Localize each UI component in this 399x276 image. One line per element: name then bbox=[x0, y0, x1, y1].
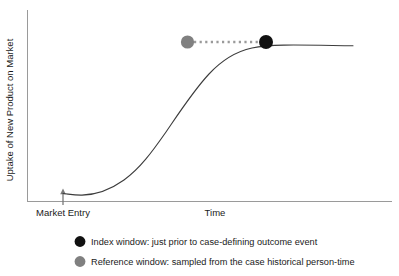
reference-window-point bbox=[181, 35, 194, 48]
x-axis-title: Time bbox=[205, 207, 226, 218]
legend-item-index-window: Index window: just prior to case-definin… bbox=[75, 236, 318, 247]
legend-label-reference-window: Reference window: sampled from the case … bbox=[91, 257, 355, 267]
chart-background bbox=[0, 0, 399, 276]
index-window-point bbox=[259, 35, 273, 49]
chart-figure: Uptake of New Product on Market Market E… bbox=[0, 0, 399, 276]
legend-marker-index-window bbox=[75, 236, 86, 247]
legend-label-index-window: Index window: just prior to case-definin… bbox=[91, 237, 318, 247]
legend-item-reference-window: Reference window: sampled from the case … bbox=[75, 256, 355, 267]
chart-svg: Uptake of New Product on Market Market E… bbox=[0, 0, 399, 276]
y-axis-title: Uptake of New Product on Market bbox=[4, 38, 15, 181]
x-tick-label-market-entry: Market Entry bbox=[36, 207, 90, 218]
legend-marker-reference-window bbox=[75, 256, 86, 267]
